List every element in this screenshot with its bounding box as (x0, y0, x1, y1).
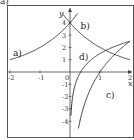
curve-label: a) (13, 48, 22, 58)
chart-frame (8, 6, 134, 138)
y-tick-label: 1 (62, 56, 66, 64)
curve-label: b) (81, 21, 90, 31)
x-tick-label: 1 (98, 74, 102, 82)
x-tick-label: -1 (38, 74, 44, 82)
x-axis-label: x (128, 79, 133, 88)
y-axis-arrow-icon (68, 8, 72, 12)
y-tick-label: 4 (62, 19, 66, 27)
y-tick-label: -2 (62, 93, 68, 101)
function-graph: -2-1012-4-3-2-11234xy a)b)c)d) (0, 0, 134, 140)
y-tick-label: -1 (62, 81, 68, 89)
y-axis-label: y (58, 9, 64, 18)
curve-label: c) (106, 90, 115, 100)
axes: -2-1012-4-3-2-11234xy (8, 8, 133, 137)
y-tick-label: 2 (62, 44, 66, 52)
x-tick-label: -2 (8, 74, 14, 82)
y-tick-label: -3 (62, 105, 68, 113)
y-tick-label: 3 (62, 32, 66, 40)
curve-label: d) (79, 52, 88, 62)
y-tick-label: -4 (62, 118, 68, 126)
